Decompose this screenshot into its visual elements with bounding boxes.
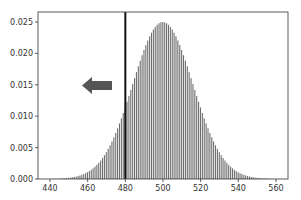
bar	[132, 84, 133, 179]
bar	[174, 33, 175, 179]
y-tick-label: 0.010	[10, 112, 33, 121]
bar	[217, 149, 218, 179]
bar	[140, 61, 141, 179]
bar	[247, 176, 248, 179]
bar	[145, 45, 146, 179]
bar	[241, 174, 242, 179]
y-tick-label: 0.020	[10, 49, 33, 58]
bar	[166, 23, 167, 179]
bar	[142, 55, 143, 179]
bar	[130, 90, 131, 179]
bar	[232, 168, 233, 179]
bar	[211, 137, 212, 179]
bar	[236, 171, 237, 179]
bar	[194, 90, 195, 179]
x-tick-label: 480	[118, 184, 133, 193]
bar	[219, 152, 220, 179]
bar	[172, 30, 173, 179]
bar	[81, 175, 82, 179]
bar	[160, 22, 161, 179]
bar	[110, 145, 111, 179]
bar	[158, 23, 159, 179]
y-tick-label: 0.000	[10, 175, 33, 184]
bar	[123, 113, 124, 179]
bar	[85, 173, 86, 179]
x-tick-label: 560	[268, 184, 283, 193]
bar	[230, 167, 231, 179]
bar	[155, 27, 156, 179]
bar	[126, 102, 127, 179]
bar	[198, 102, 199, 179]
bar	[153, 30, 154, 179]
bar	[111, 141, 112, 179]
bar	[96, 165, 97, 179]
bar	[79, 175, 80, 179]
bar	[134, 78, 135, 179]
bar	[200, 107, 201, 179]
bar	[78, 176, 79, 179]
bar	[191, 78, 192, 179]
bar	[151, 33, 152, 179]
bar	[121, 118, 122, 179]
bar	[189, 72, 190, 179]
bar	[215, 145, 216, 179]
bar	[185, 61, 186, 179]
bar	[206, 123, 207, 179]
bar	[228, 165, 229, 179]
bar	[83, 174, 84, 179]
bar	[149, 36, 150, 179]
bar	[187, 66, 188, 179]
bar	[104, 155, 105, 179]
bar	[147, 41, 148, 179]
bar	[204, 118, 205, 179]
bar	[170, 27, 171, 179]
bar	[202, 113, 203, 179]
bar	[234, 170, 235, 179]
bar	[196, 96, 197, 179]
binomial-distribution-chart: 440460480500520540560 0.0000.0050.0100.0…	[0, 0, 301, 200]
bar	[100, 160, 101, 179]
bar	[108, 149, 109, 179]
bar	[94, 167, 95, 179]
bar	[183, 55, 184, 179]
bar	[117, 128, 118, 179]
bar	[168, 25, 169, 179]
bar	[136, 72, 137, 179]
bar	[93, 168, 94, 179]
bar	[224, 160, 225, 179]
x-tick-label: 440	[42, 184, 57, 193]
bar	[143, 50, 144, 179]
bar	[119, 123, 120, 179]
bar	[164, 22, 165, 179]
x-axis: 440460480500520540560	[42, 179, 283, 193]
bar	[177, 41, 178, 179]
y-tick-label: 0.025	[10, 18, 33, 27]
y-tick-label: 0.005	[10, 144, 33, 153]
bar	[226, 163, 227, 179]
bar	[87, 172, 88, 179]
bar	[106, 152, 107, 179]
x-tick-label: 460	[80, 184, 95, 193]
bar	[207, 128, 208, 179]
y-axis: 0.0000.0050.0100.0150.0200.025	[10, 18, 38, 184]
bar	[89, 171, 90, 179]
bar	[209, 133, 210, 179]
histogram-bars	[53, 22, 273, 179]
bar	[157, 25, 158, 179]
bar	[113, 137, 114, 179]
bar	[138, 66, 139, 179]
bar	[102, 158, 103, 179]
x-tick-label: 520	[193, 184, 208, 193]
bar	[181, 50, 182, 179]
bar	[238, 172, 239, 179]
bar	[221, 155, 222, 179]
bar	[115, 133, 116, 179]
bar	[98, 163, 99, 179]
x-tick-label: 500	[155, 184, 170, 193]
bar	[128, 96, 129, 179]
bar	[175, 36, 176, 179]
y-tick-label: 0.015	[10, 81, 33, 90]
bar	[213, 141, 214, 179]
bar	[245, 175, 246, 179]
bar	[91, 170, 92, 179]
